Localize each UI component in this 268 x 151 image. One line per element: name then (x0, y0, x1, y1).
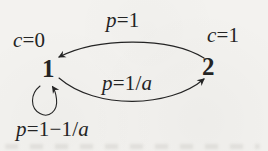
state-node-1: 1 (42, 56, 55, 81)
self-loop-curve (33, 86, 57, 115)
diagram-canvas: 1 2 c=0 c=1 p=1 p=1/a p=1−1/a (0, 0, 268, 151)
scan-artifact (5, 144, 260, 149)
node-2-cost-annotation: c=1 (207, 25, 239, 46)
node-1-cost-annotation: c=0 (13, 30, 45, 51)
edge-label-2-to-1: p=1 (106, 10, 139, 31)
edge-2-to-1-curve (59, 42, 204, 58)
edge-label-1-to-2: p=1/a (102, 73, 152, 94)
self-loop-label: p=1−1/a (16, 119, 89, 140)
state-node-2: 2 (202, 54, 215, 79)
